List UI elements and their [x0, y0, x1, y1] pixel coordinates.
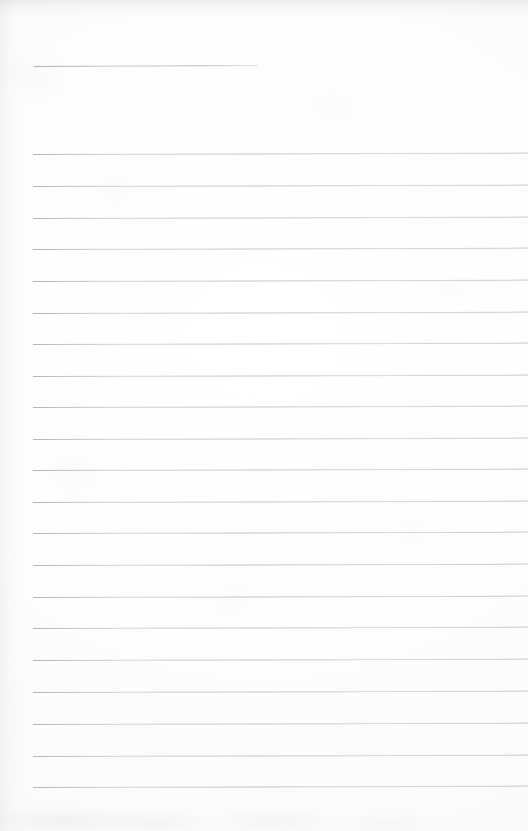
rule-line — [33, 185, 528, 187]
rule-line — [33, 659, 528, 661]
rule-line — [33, 786, 528, 788]
rule-line — [33, 755, 528, 757]
rule-line — [33, 501, 528, 503]
rule-line — [33, 312, 528, 314]
rule-line — [33, 280, 528, 282]
rule-line — [33, 217, 528, 219]
rule-line — [33, 406, 528, 408]
rule-line — [33, 438, 528, 440]
rule-line — [33, 596, 528, 598]
ruled-lines-layer — [0, 0, 528, 831]
rule-line — [33, 248, 528, 250]
rule-line — [33, 469, 528, 471]
header-rule-line — [34, 65, 258, 67]
rule-line — [33, 627, 528, 629]
rule-line — [33, 691, 528, 693]
rule-line — [33, 564, 528, 566]
rule-line — [33, 375, 528, 377]
rule-line — [33, 532, 528, 534]
rule-line — [33, 723, 528, 725]
scanned-page — [0, 0, 528, 831]
rule-line — [33, 153, 528, 155]
rule-line — [33, 343, 528, 345]
